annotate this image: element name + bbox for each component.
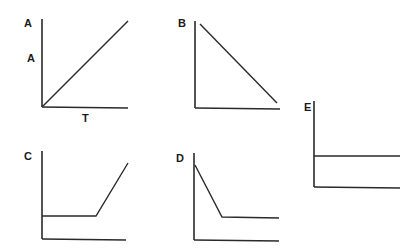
panel-a-curve (42, 21, 128, 107)
panel-e-label: E (304, 101, 311, 113)
panel-d-label: D (176, 152, 184, 164)
panel-c-x-axis (42, 239, 126, 240)
panel-c-label: C (24, 150, 32, 162)
panel-b-x-axis (195, 108, 280, 109)
panel-a-x-axis (42, 107, 128, 108)
panel-a: A A T (24, 17, 128, 124)
panel-b-curve (200, 24, 277, 103)
panel-a-x-axis-label: T (82, 112, 89, 124)
panel-d: D (176, 152, 279, 241)
graph-panels-figure: A A T B C D E (0, 0, 417, 250)
panel-c-curve (42, 163, 128, 216)
panel-c: C (24, 150, 128, 240)
panel-d-curve (195, 165, 279, 218)
panel-a-y-axis-label: A (27, 52, 35, 64)
panel-a-label: A (24, 17, 32, 29)
panel-e: E (304, 101, 400, 188)
panel-e-x-axis (314, 187, 400, 188)
panel-b: B (178, 17, 280, 109)
panel-d-x-axis (194, 240, 279, 241)
panel-b-label: B (178, 17, 186, 29)
